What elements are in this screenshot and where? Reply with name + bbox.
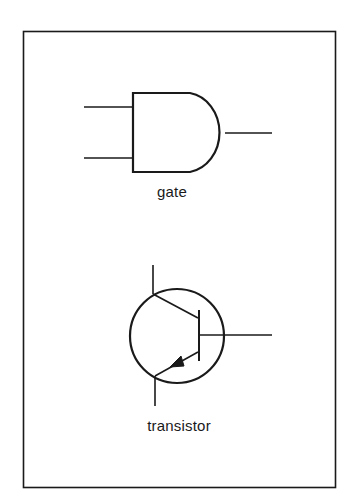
transistor-label: transistor <box>147 417 211 434</box>
gate-label: gate <box>157 183 187 200</box>
diagram-figure: gate transistor <box>0 0 354 499</box>
